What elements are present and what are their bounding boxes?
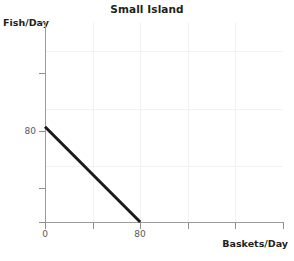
gridline-vertical xyxy=(140,22,141,222)
plot-area xyxy=(45,22,283,222)
y-axis-tick xyxy=(39,188,45,189)
x-axis-tick xyxy=(283,223,284,229)
x-axis-tick-label: 0 xyxy=(30,229,60,239)
y-axis-tick xyxy=(39,73,45,74)
x-axis-tick xyxy=(235,223,236,229)
gridline-vertical xyxy=(93,22,94,222)
gridline-horizontal xyxy=(45,166,283,167)
y-axis-tick-label: 80 xyxy=(25,126,36,136)
x-axis-tick xyxy=(188,223,189,229)
gridline-vertical xyxy=(188,22,189,222)
chart-figure: Small Island Fish/Day Baskets/Day 80080 xyxy=(0,0,294,261)
y-axis-tick xyxy=(39,22,45,23)
x-axis-tick xyxy=(93,223,94,229)
gridline-horizontal xyxy=(45,51,283,52)
gridline-vertical xyxy=(235,22,236,222)
y-axis-line xyxy=(45,22,46,223)
chart-title: Small Island xyxy=(0,3,294,15)
y-axis-tick xyxy=(39,131,45,132)
x-axis-line xyxy=(45,222,284,223)
x-axis-tick-label: 80 xyxy=(125,229,155,239)
gridline-horizontal xyxy=(45,109,283,110)
x-axis-title: Baskets/Day xyxy=(222,238,288,249)
